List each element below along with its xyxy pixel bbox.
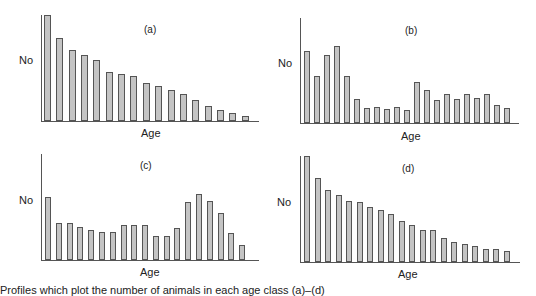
panel-label: (d) [402, 163, 414, 174]
bar [388, 214, 394, 262]
bar [441, 238, 447, 262]
bar [472, 246, 478, 262]
y-axis-label: No [277, 196, 291, 208]
bar [378, 210, 384, 262]
bar [451, 242, 457, 262]
bar [357, 202, 363, 262]
bar [493, 249, 499, 262]
bar [462, 244, 468, 262]
bar [336, 195, 342, 262]
bar [420, 230, 426, 262]
bar [430, 230, 436, 262]
bar [367, 207, 373, 262]
bar [346, 201, 352, 262]
bar [409, 225, 415, 262]
bar [483, 249, 489, 262]
bar [304, 156, 310, 262]
bar [504, 251, 510, 262]
x-axis-label: Age [398, 268, 418, 280]
figure-caption: Profiles which plot the number of animal… [0, 284, 325, 296]
bar [399, 221, 405, 262]
y-axis [300, 156, 301, 263]
bar [325, 190, 331, 262]
x-axis [300, 262, 520, 263]
bar [315, 178, 321, 262]
